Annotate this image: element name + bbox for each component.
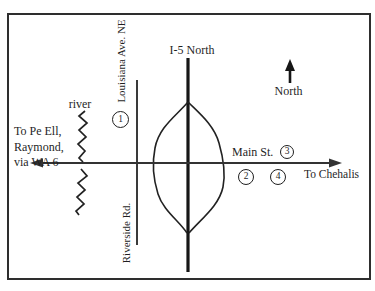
river-label: river [62, 98, 98, 111]
location-marker-3-number: 3 [285, 147, 290, 157]
directions-map: I-5 North North river Louisiana Ave. NE … [0, 0, 375, 291]
north-arrow-head-icon [285, 59, 295, 71]
north-compass-label: North [272, 85, 305, 98]
location-marker-4-number: 4 [276, 172, 281, 182]
to-chehalis-label: To Chehalis [304, 168, 359, 181]
location-marker-1: 1 [112, 111, 129, 128]
west-destination-label: To Pe Ell, Raymond, via WA 6 [14, 124, 64, 171]
i5-bulge-right-curve [188, 102, 224, 233]
location-marker-3: 3 [280, 145, 294, 159]
i5-bulge-left-curve [153, 102, 188, 233]
west-destination-line1: To Pe Ell, [14, 124, 64, 140]
river-line-lower [76, 169, 87, 215]
location-marker-2-number: 2 [244, 172, 249, 182]
west-destination-line2: Raymond, [14, 140, 64, 156]
riverside-rd-label: Riverside Rd. [120, 201, 134, 265]
river-line-upper [78, 111, 87, 162]
louisiana-ave-label: Louisiana Ave. NE [115, 17, 129, 105]
location-marker-4: 4 [270, 169, 286, 185]
main-st-east-arrowhead-icon [329, 159, 342, 168]
west-destination-line3: via WA 6 [14, 155, 64, 171]
location-marker-2: 2 [238, 169, 254, 185]
main-st-label: Main St. [232, 146, 273, 159]
i5-north-label: I-5 North [162, 44, 222, 57]
location-marker-1-number: 1 [118, 115, 123, 125]
